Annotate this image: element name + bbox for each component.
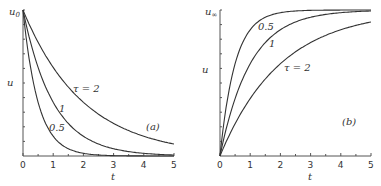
panel-label-b: (b) — [342, 116, 356, 127]
svg-text:2: 2 — [80, 160, 86, 170]
ytop-label-b: u∞ — [205, 6, 217, 19]
curve-label-05-b: 0.5 — [258, 21, 274, 32]
svg-text:5: 5 — [171, 160, 177, 170]
curve-label-05-a: 0.5 — [49, 122, 65, 133]
panel-label-a: (a) — [146, 121, 160, 132]
curve-label-tau2-b: τ = 2 — [284, 62, 311, 73]
svg-text:3: 3 — [111, 160, 117, 170]
svg-text:1: 1 — [247, 160, 253, 170]
svg-text:1: 1 — [50, 160, 56, 170]
svg-text:5: 5 — [368, 160, 374, 170]
svg-text:2: 2 — [277, 160, 283, 170]
svg-text:3: 3 — [308, 160, 314, 170]
xlabel-a: t — [111, 171, 116, 182]
curve-label-1-a: 1 — [59, 103, 65, 114]
curve-label-1-b: 1 — [269, 38, 275, 49]
xlabel-b: t — [308, 171, 313, 182]
figure: 012345 u0 u t τ = 2 1 0.5 (a) 012345 u∞ … — [0, 0, 381, 186]
svg-text:4: 4 — [141, 160, 147, 170]
svg-text:0: 0 — [20, 160, 26, 170]
curve-label-tau2-a: τ = 2 — [73, 83, 100, 94]
svg-text:4: 4 — [338, 160, 344, 170]
curve-b-tau05 — [220, 10, 371, 156]
ylabel-b: u — [202, 64, 208, 75]
panel-a: 012345 u0 u t τ = 2 1 0.5 (a) — [7, 6, 177, 182]
ytop-label-a: u0 — [9, 6, 20, 19]
curve-b-tau1 — [220, 11, 371, 156]
svg-text:0: 0 — [217, 160, 223, 170]
panel-b: 012345 u∞ u t 0.5 1 τ = 2 (b) — [202, 6, 374, 182]
ylabel-a: u — [7, 77, 13, 88]
ticks-b: 012345 — [217, 10, 374, 170]
